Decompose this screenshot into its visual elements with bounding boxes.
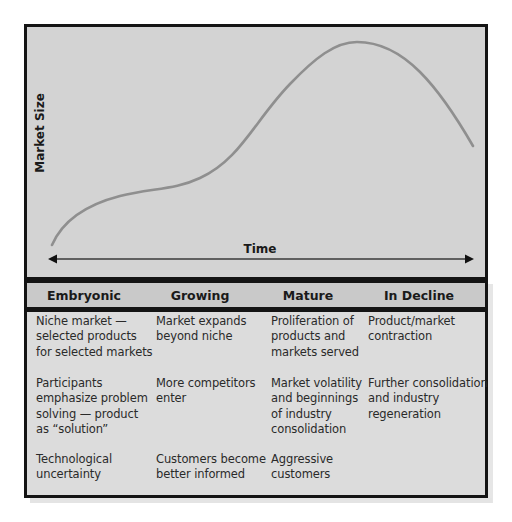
table-cell: Proliferation of products and markets se… — [271, 314, 359, 360]
panel-shadow-bottom — [30, 498, 492, 503]
table-cell: More competitors enter — [156, 376, 255, 407]
stage-header-in-decline: In Decline — [384, 288, 454, 303]
y-axis-label: Market Size — [33, 93, 47, 173]
table-cell: Customers become better informed — [156, 452, 266, 483]
table-cell: Product/market contraction — [368, 314, 455, 345]
table-cell: Further consolidation and industry regen… — [368, 376, 488, 422]
table-cell: Niche market — selected products for sel… — [36, 314, 152, 360]
table-cell: Technological uncertainty — [36, 452, 112, 483]
table-cell: Market volatility and beginnings of indu… — [271, 376, 362, 437]
stage-header-growing: Growing — [171, 288, 230, 303]
panel-shadow — [488, 284, 493, 503]
stage-header-embryonic: Embryonic — [47, 288, 121, 303]
table-cell: Market expands beyond niche — [156, 314, 246, 345]
x-axis-label: Time — [244, 242, 277, 256]
table-cell: Participants emphasize problem solving —… — [36, 376, 148, 437]
table-cell: Aggressive customers — [271, 452, 333, 483]
stage-header-mature: Mature — [283, 288, 333, 303]
